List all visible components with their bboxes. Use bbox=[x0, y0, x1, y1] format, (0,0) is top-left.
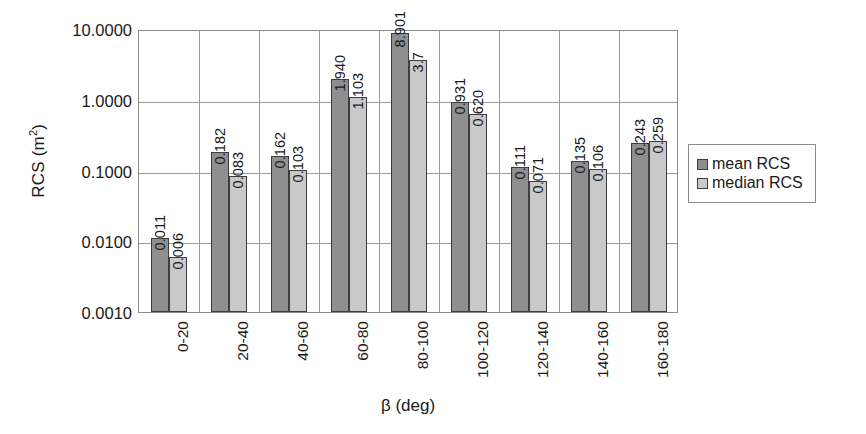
bar-value-label: 0.243 bbox=[632, 119, 647, 156]
x-tick-label: 40-60 bbox=[295, 321, 311, 361]
bar-value-label: 0.103 bbox=[291, 145, 306, 182]
x-tick-label: 0-20 bbox=[175, 321, 191, 352]
bar-group: 8.9013.7 bbox=[379, 31, 439, 312]
bar-value-label: 1.103 bbox=[351, 72, 366, 109]
bar-median-rcs[interactable] bbox=[349, 97, 367, 312]
legend-label: mean RCS bbox=[712, 156, 790, 172]
y-axis-title-text: RCS (m bbox=[29, 136, 48, 198]
x-tick-label: 140-160 bbox=[595, 321, 611, 378]
y-tick-label: 1.0000 bbox=[46, 93, 132, 110]
bar-mean-rcs[interactable] bbox=[211, 152, 229, 312]
bar-value-label: 1.940 bbox=[332, 55, 347, 92]
x-axis-ticks: 0-2020-4040-6060-8080-100100-120120-1401… bbox=[138, 313, 678, 393]
bar-value-label: 0.011 bbox=[152, 215, 167, 251]
bar-value-label: 0.259 bbox=[651, 117, 666, 154]
y-tick-label: 0.1000 bbox=[46, 163, 132, 180]
bar-value-label: 0.182 bbox=[212, 128, 227, 165]
bar-median-rcs[interactable] bbox=[649, 141, 667, 312]
bar-value-label: 8.901 bbox=[392, 11, 407, 48]
legend-item[interactable]: mean RCS bbox=[697, 156, 803, 172]
bar-group: 0.0110.006 bbox=[139, 31, 199, 312]
bar-value-label: 0.620 bbox=[471, 90, 486, 127]
bar-value-label: 0.931 bbox=[452, 78, 467, 115]
bar-group: 0.1620.103 bbox=[259, 31, 319, 312]
x-tick-label: 160-180 bbox=[655, 321, 671, 378]
bar-group: 1.9401.103 bbox=[319, 31, 379, 312]
x-tick-label: 80-100 bbox=[415, 321, 431, 369]
bar-value-label: 3.7 bbox=[411, 52, 426, 72]
bar-mean-rcs[interactable] bbox=[571, 161, 589, 312]
rcs-bar-chart: RCS (m2) 10.00001.00000.10000.01000.0010… bbox=[0, 0, 866, 434]
y-axis-ticks: 10.00001.00000.10000.01000.0010 bbox=[46, 0, 132, 434]
bar-value-label: 0.111 bbox=[512, 145, 527, 180]
y-tick-label: 0.0010 bbox=[46, 305, 132, 322]
bar-group: 0.1350.106 bbox=[559, 31, 619, 312]
bar-median-rcs[interactable] bbox=[529, 181, 547, 312]
x-tick-label: 20-40 bbox=[235, 321, 251, 361]
bar-median-rcs[interactable] bbox=[469, 114, 487, 312]
y-tick-label: 0.0100 bbox=[46, 234, 132, 251]
legend-swatch-median-icon bbox=[697, 178, 708, 189]
bar-value-label: 0.006 bbox=[171, 233, 186, 270]
bar-value-label: 0.083 bbox=[231, 152, 246, 189]
bar-group: 0.9310.620 bbox=[439, 31, 499, 312]
bar-group: 0.1820.083 bbox=[199, 31, 259, 312]
chart-legend: mean RCSmedian RCS bbox=[688, 144, 816, 203]
x-tick-label: 100-120 bbox=[475, 321, 491, 378]
bar-value-label: 0.135 bbox=[572, 137, 587, 174]
x-tick-label: 60-80 bbox=[355, 321, 371, 361]
bar-value-label: 0.162 bbox=[272, 131, 287, 168]
bar-mean-rcs[interactable] bbox=[631, 143, 649, 312]
legend-label: median RCS bbox=[712, 175, 803, 191]
bar-median-rcs[interactable] bbox=[289, 170, 307, 312]
bar-mean-rcs[interactable] bbox=[511, 167, 529, 312]
bar-mean-rcs[interactable] bbox=[271, 156, 289, 312]
x-axis-title: β (deg) bbox=[138, 396, 678, 416]
bar-group: 0.2430.259 bbox=[619, 31, 679, 312]
y-tick-label: 10.0000 bbox=[46, 22, 132, 39]
y-axis-title-exponent: 2 bbox=[27, 130, 39, 136]
x-tick-label: 120-140 bbox=[535, 321, 551, 378]
plot-area: 0.0110.0060.1820.0830.1620.1031.9401.103… bbox=[138, 30, 678, 313]
bar-value-label: 0.106 bbox=[591, 144, 606, 181]
bar-mean-rcs[interactable] bbox=[331, 79, 349, 312]
bar-median-rcs[interactable] bbox=[229, 176, 247, 312]
bar-group: 0.1110.071 bbox=[499, 31, 559, 312]
legend-swatch-mean-icon bbox=[697, 159, 708, 170]
y-axis-title-paren: ) bbox=[29, 124, 48, 130]
bar-value-label: 0.071 bbox=[531, 157, 546, 194]
bar-mean-rcs[interactable] bbox=[391, 33, 409, 312]
bar-median-rcs[interactable] bbox=[409, 60, 427, 312]
bar-mean-rcs[interactable] bbox=[451, 102, 469, 312]
legend-item[interactable]: median RCS bbox=[697, 175, 803, 191]
bar-median-rcs[interactable] bbox=[589, 169, 607, 312]
